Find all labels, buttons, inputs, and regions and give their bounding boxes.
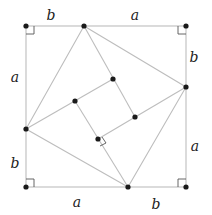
label-right-lower: a [191,138,199,154]
label-bottom-right: b [152,196,161,212]
point-inner-3 [132,114,137,119]
segment-top-to-inner [84,26,135,117]
segment-left-to-inner [26,79,113,129]
label-top-right: a [131,7,139,23]
tilted-square [26,26,186,187]
label-top-left: b [47,7,56,23]
outer-square [26,26,186,187]
point-top-left [23,23,28,28]
point-left [23,126,28,131]
points [23,23,188,189]
pythagoras-diagram: b a a b b a a b [0,0,212,215]
point-inner-4 [95,136,100,141]
label-left-lower: b [11,155,20,171]
point-inner-2 [110,76,115,81]
point-bottom-right [183,184,188,189]
point-top-right [183,23,188,28]
right-angle-inner [100,137,106,146]
point-right [183,84,188,89]
point-bottom [125,184,130,189]
label-right-upper: b [190,49,199,65]
segment-right-to-inner [98,87,186,139]
segment-bottom-to-inner [75,101,128,187]
point-top [81,23,86,28]
label-bottom-left: a [73,194,81,210]
label-left-upper: a [11,69,19,85]
point-inner-1 [72,98,77,103]
point-bottom-left [23,184,28,189]
